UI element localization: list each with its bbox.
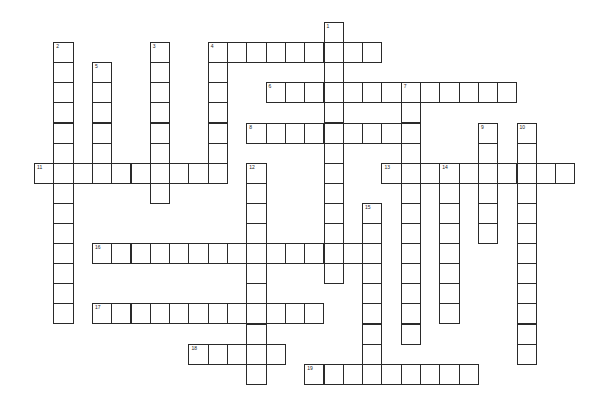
crossword-cell[interactable] (150, 243, 170, 264)
crossword-cell[interactable] (362, 82, 382, 103)
crossword-cell[interactable] (208, 62, 228, 83)
crossword-cell[interactable] (381, 123, 401, 144)
crossword-cell[interactable] (266, 243, 286, 264)
crossword-cell[interactable] (227, 42, 247, 63)
crossword-cell[interactable] (208, 102, 228, 123)
crossword-cell[interactable] (53, 243, 73, 264)
crossword-cell[interactable] (401, 243, 421, 264)
crossword-cell[interactable]: 8 (246, 123, 266, 144)
crossword-cell[interactable] (343, 123, 363, 144)
crossword-cell[interactable] (459, 163, 479, 184)
crossword-cell[interactable] (401, 364, 421, 385)
crossword-cell[interactable] (150, 123, 170, 144)
crossword-cell[interactable]: 11 (34, 163, 54, 184)
crossword-cell[interactable] (381, 82, 401, 103)
crossword-cell[interactable] (92, 163, 112, 184)
crossword-cell[interactable] (53, 283, 73, 304)
crossword-cell[interactable] (401, 183, 421, 204)
crossword-cell[interactable] (362, 344, 382, 365)
crossword-cell[interactable] (169, 243, 189, 264)
crossword-cell[interactable] (362, 263, 382, 284)
crossword-cell[interactable]: 10 (517, 123, 537, 144)
crossword-cell[interactable]: 14 (439, 163, 459, 184)
crossword-cell[interactable] (208, 243, 228, 264)
crossword-cell[interactable] (517, 203, 537, 224)
crossword-cell[interactable] (517, 163, 537, 184)
crossword-cell[interactable] (324, 163, 344, 184)
crossword-cell[interactable] (246, 223, 266, 244)
crossword-cell[interactable] (478, 183, 498, 204)
crossword-cell[interactable] (517, 344, 537, 365)
crossword-cell[interactable] (53, 203, 73, 224)
crossword-cell[interactable] (53, 303, 73, 324)
crossword-cell[interactable]: 16 (92, 243, 112, 264)
crossword-cell[interactable] (517, 183, 537, 204)
crossword-cell[interactable] (304, 42, 324, 63)
crossword-cell[interactable] (208, 303, 228, 324)
crossword-cell[interactable] (131, 243, 151, 264)
crossword-cell[interactable] (53, 82, 73, 103)
crossword-cell[interactable] (285, 303, 305, 324)
crossword-cell[interactable] (401, 102, 421, 123)
crossword-cell[interactable] (324, 364, 344, 385)
crossword-cell[interactable] (304, 82, 324, 103)
crossword-cell[interactable] (362, 283, 382, 304)
crossword-cell[interactable] (150, 183, 170, 204)
crossword-cell[interactable] (53, 183, 73, 204)
crossword-cell[interactable] (188, 243, 208, 264)
crossword-cell[interactable] (343, 243, 363, 264)
crossword-cell[interactable]: 17 (92, 303, 112, 324)
crossword-cell[interactable]: 12 (246, 163, 266, 184)
crossword-cell[interactable] (401, 143, 421, 164)
crossword-cell[interactable] (439, 263, 459, 284)
crossword-cell[interactable] (131, 163, 151, 184)
crossword-cell[interactable] (401, 223, 421, 244)
crossword-cell[interactable] (401, 324, 421, 345)
crossword-cell[interactable] (53, 123, 73, 144)
crossword-cell[interactable] (401, 123, 421, 144)
crossword-cell[interactable] (439, 223, 459, 244)
crossword-cell[interactable] (401, 303, 421, 324)
crossword-cell[interactable] (150, 62, 170, 83)
crossword-cell[interactable] (324, 82, 344, 103)
crossword-cell[interactable] (208, 123, 228, 144)
crossword-cell[interactable] (439, 183, 459, 204)
crossword-cell[interactable] (150, 163, 170, 184)
crossword-cell[interactable] (208, 143, 228, 164)
crossword-cell[interactable] (517, 283, 537, 304)
crossword-cell[interactable] (459, 82, 479, 103)
crossword-cell[interactable] (150, 143, 170, 164)
crossword-cell[interactable] (439, 243, 459, 264)
crossword-cell[interactable] (478, 143, 498, 164)
crossword-cell[interactable] (285, 123, 305, 144)
crossword-cell[interactable] (227, 243, 247, 264)
crossword-cell[interactable] (517, 223, 537, 244)
crossword-cell[interactable] (304, 243, 324, 264)
crossword-cell[interactable] (401, 263, 421, 284)
crossword-cell[interactable] (246, 364, 266, 385)
crossword-cell[interactable] (439, 82, 459, 103)
crossword-cell[interactable] (266, 123, 286, 144)
crossword-cell[interactable] (53, 62, 73, 83)
crossword-cell[interactable] (304, 303, 324, 324)
crossword-cell[interactable] (53, 263, 73, 284)
crossword-cell[interactable]: 15 (362, 203, 382, 224)
crossword-cell[interactable] (343, 82, 363, 103)
crossword-cell[interactable] (420, 364, 440, 385)
crossword-cell[interactable] (420, 82, 440, 103)
crossword-cell[interactable] (362, 223, 382, 244)
crossword-cell[interactable] (208, 163, 228, 184)
crossword-cell[interactable] (73, 163, 93, 184)
crossword-cell[interactable] (246, 344, 266, 365)
crossword-cell[interactable] (517, 324, 537, 345)
crossword-cell[interactable] (343, 42, 363, 63)
crossword-cell[interactable] (517, 243, 537, 264)
crossword-cell[interactable] (439, 203, 459, 224)
crossword-cell[interactable] (401, 203, 421, 224)
crossword-cell[interactable] (92, 123, 112, 144)
crossword-cell[interactable] (459, 364, 479, 385)
crossword-cell[interactable] (111, 163, 131, 184)
crossword-cell[interactable] (285, 82, 305, 103)
crossword-cell[interactable]: 9 (478, 123, 498, 144)
crossword-cell[interactable] (324, 42, 344, 63)
